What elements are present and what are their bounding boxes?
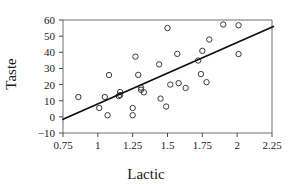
data-point-marker (198, 71, 203, 76)
x-tick-label: 1 (95, 139, 101, 151)
axes-frame (63, 20, 272, 133)
data-point-marker (106, 72, 111, 77)
data-point-marker (105, 113, 110, 118)
data-point-marker (156, 62, 161, 67)
y-tick-label: 40 (44, 46, 56, 58)
data-point-marker (200, 48, 205, 53)
x-tick-label: 0.75 (53, 139, 73, 151)
x-tick-label: 1.5 (161, 139, 175, 151)
data-point-marker (163, 104, 168, 109)
y-tick-label: 10 (44, 95, 56, 107)
x-tick-label: 2 (234, 139, 240, 151)
data-point-marker (204, 79, 209, 84)
y-tick-label: 30 (44, 62, 56, 74)
x-axis-ticks (63, 133, 272, 137)
y-tick-label: −10 (38, 127, 56, 139)
y-axis-tick-labels: −100102030405060 (38, 14, 56, 139)
data-point-marker (76, 94, 81, 99)
data-point-marker (102, 94, 107, 99)
y-axis-ticks (59, 20, 63, 133)
plot-frame (63, 20, 272, 133)
data-point-marker (133, 54, 138, 59)
data-point-marker (168, 82, 173, 87)
x-tick-label: 1.25 (123, 139, 143, 151)
data-point-marker (136, 72, 141, 77)
data-point-marker (207, 37, 212, 42)
data-point-marker (183, 85, 188, 90)
data-point-marker (97, 105, 102, 110)
data-point-marker (130, 105, 135, 110)
data-point-marker (175, 51, 180, 56)
y-tick-label: 0 (50, 111, 56, 123)
y-tick-label: 60 (44, 14, 56, 26)
data-point-marker (176, 80, 181, 85)
x-axis-tick-labels: 0.7511.251.51.7522.25 (53, 139, 282, 151)
plot-canvas: 0.7511.251.51.7522.25 −100102030405060 L… (0, 0, 293, 184)
data-point-marker (165, 25, 170, 30)
x-tick-label: 2.25 (262, 139, 282, 151)
scatter-plot-figure: 0.7511.251.51.7522.25 −100102030405060 L… (0, 0, 293, 184)
y-axis-title: Taste (3, 58, 19, 90)
data-point-marker (158, 96, 163, 101)
data-point-marker (236, 23, 241, 28)
data-point-marker (130, 113, 135, 118)
y-tick-label: 20 (44, 79, 56, 91)
y-tick-label: 50 (44, 30, 56, 42)
data-point-marker (221, 22, 226, 27)
x-axis-title: Lactic (127, 166, 165, 182)
data-point-marker (236, 51, 241, 56)
x-tick-label: 1.75 (193, 139, 213, 151)
